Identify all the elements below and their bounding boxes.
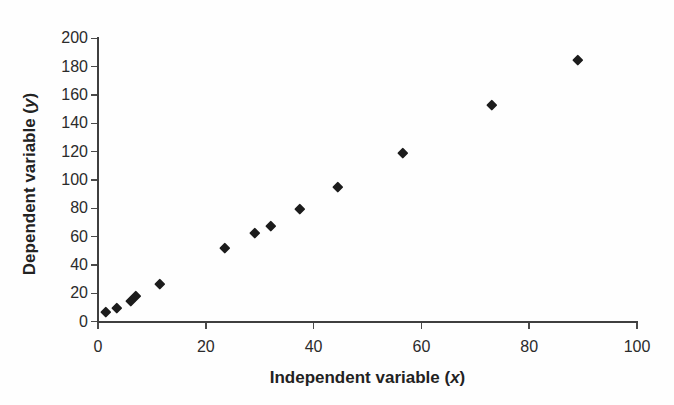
x-axis-line bbox=[97, 321, 638, 323]
scatter-plot-figure: 020406080100020406080100120140160180200 … bbox=[0, 0, 674, 405]
data-point bbox=[295, 203, 306, 214]
x-axis-tick-label: 80 bbox=[499, 338, 559, 356]
y-axis-title-variable: y bbox=[20, 98, 39, 107]
y-axis-title-prefix: Dependent variable ( bbox=[20, 108, 39, 275]
x-axis-title-prefix: Independent variable ( bbox=[270, 368, 450, 387]
y-axis-tick bbox=[91, 208, 97, 210]
x-axis-title: Independent variable (x) bbox=[98, 368, 637, 388]
data-point bbox=[486, 100, 497, 111]
x-axis-tick-label: 20 bbox=[176, 338, 236, 356]
x-axis-tick-label: 40 bbox=[284, 338, 344, 356]
x-axis-tick bbox=[97, 323, 99, 329]
y-axis-tick-label: 180 bbox=[8, 58, 88, 76]
data-point bbox=[332, 182, 343, 193]
y-axis-tick bbox=[91, 236, 97, 238]
y-axis-tick bbox=[91, 66, 97, 68]
data-point bbox=[111, 302, 122, 313]
y-axis-tick-label: 0 bbox=[8, 313, 88, 331]
data-point bbox=[219, 243, 230, 254]
x-axis-tick bbox=[421, 323, 423, 329]
chart-layer: 020406080100020406080100120140160180200 bbox=[0, 0, 674, 405]
y-axis-tick bbox=[91, 94, 97, 96]
x-axis-tick-label: 100 bbox=[607, 338, 667, 356]
x-axis-tick bbox=[636, 323, 638, 329]
y-axis-tick bbox=[91, 321, 97, 323]
x-axis-title-variable: x bbox=[450, 368, 459, 387]
data-point bbox=[572, 54, 583, 65]
y-axis-tick bbox=[91, 151, 97, 153]
y-axis-tick bbox=[91, 293, 97, 295]
x-axis-tick-label: 0 bbox=[68, 338, 128, 356]
y-axis-tick bbox=[91, 123, 97, 125]
x-axis-title-suffix: ) bbox=[460, 368, 466, 387]
y-axis-line bbox=[97, 37, 99, 323]
y-axis-tick bbox=[91, 38, 97, 40]
data-point bbox=[397, 148, 408, 159]
y-axis-tick-label: 200 bbox=[8, 29, 88, 47]
x-axis-tick-label: 60 bbox=[391, 338, 451, 356]
data-point bbox=[155, 278, 166, 289]
x-axis-tick bbox=[528, 323, 530, 329]
data-point bbox=[101, 306, 112, 317]
y-axis-tick bbox=[91, 179, 97, 181]
y-axis-tick bbox=[91, 264, 97, 266]
x-axis-tick bbox=[313, 323, 315, 329]
y-axis-title-suffix: ) bbox=[20, 93, 39, 99]
y-axis-tick-label: 20 bbox=[8, 284, 88, 302]
x-axis-tick bbox=[205, 323, 207, 329]
y-axis-title: Dependent variable (y) bbox=[20, 93, 40, 275]
data-point bbox=[265, 220, 276, 231]
data-point bbox=[249, 227, 260, 238]
